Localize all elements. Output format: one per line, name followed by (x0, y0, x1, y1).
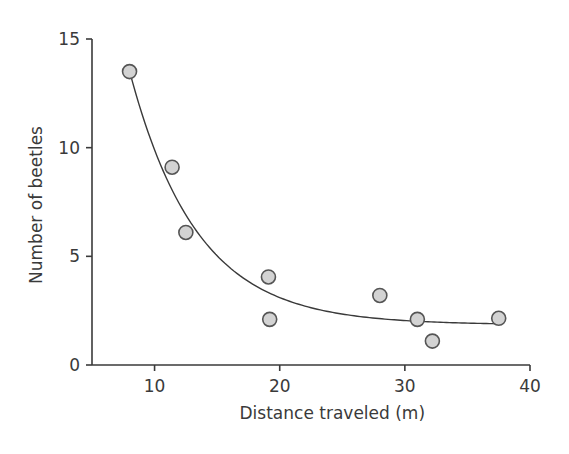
x-tick-label: 30 (394, 376, 416, 396)
data-point (410, 312, 424, 326)
data-point (263, 312, 277, 326)
x-tick-label: 20 (269, 376, 291, 396)
data-point (179, 225, 193, 239)
x-tick-label: 10 (144, 376, 166, 396)
fit-curve-layer (130, 71, 499, 324)
x-axis-label: Distance traveled (m) (240, 403, 426, 423)
data-point (373, 288, 387, 302)
x-tick-label: 40 (519, 376, 541, 396)
data-point (492, 311, 506, 325)
y-tick-label: 15 (58, 29, 80, 49)
data-point (165, 160, 179, 174)
data-point (123, 65, 137, 79)
y-tick-label: 5 (69, 246, 80, 266)
axes: 05101510203040 (58, 29, 540, 396)
scatter-chart: 05101510203040 Distance traveled (m) Num… (0, 0, 569, 454)
y-tick-label: 0 (69, 355, 80, 375)
y-tick-label: 10 (58, 138, 80, 158)
fit-curve (130, 71, 499, 324)
data-point (261, 270, 275, 284)
data-point (425, 334, 439, 348)
y-axis-label: Number of beetles (26, 126, 46, 284)
